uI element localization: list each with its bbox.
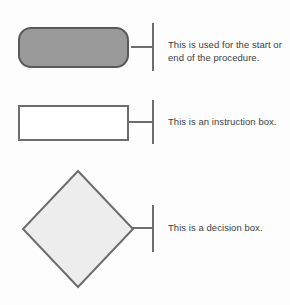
leader-line-icon [131, 46, 152, 48]
terminator-description: This is used for the start or end of the… [168, 38, 286, 64]
end-bar-icon [152, 205, 154, 252]
terminator-shape [18, 27, 129, 68]
instruction-box-shape [18, 105, 129, 141]
diamond-polygon [23, 171, 133, 287]
connector-terminator [131, 46, 155, 48]
end-bar-icon [152, 23, 154, 71]
decision-description: This is a decision box. [168, 221, 286, 234]
connector-decision [131, 227, 155, 229]
leader-line-icon [129, 121, 152, 123]
flowchart-legend-diagram: This is used for the start or end of the… [0, 0, 290, 305]
connector-instruction [129, 121, 155, 123]
diamond-icon [20, 168, 136, 290]
decision-box-shape [20, 168, 136, 290]
end-bar-icon [152, 100, 154, 144]
leader-line-icon [131, 227, 152, 229]
instruction-description: This is an instruction box. [168, 115, 286, 128]
